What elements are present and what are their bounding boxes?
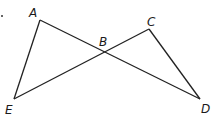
label-E: E bbox=[5, 103, 13, 117]
label-B: B bbox=[99, 35, 107, 49]
label-C: C bbox=[147, 15, 156, 29]
label-D: D bbox=[201, 102, 210, 116]
marker-dot bbox=[1, 15, 3, 17]
segment-AD bbox=[40, 20, 200, 99]
geometry-figure: A B C D E bbox=[0, 0, 213, 122]
triangle-diagram: A B C D E bbox=[0, 0, 213, 122]
segment-CD bbox=[149, 29, 200, 99]
label-A: A bbox=[28, 6, 37, 20]
